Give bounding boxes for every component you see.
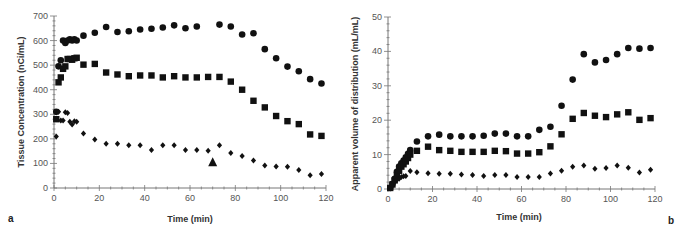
data-point bbox=[525, 150, 531, 156]
data-point bbox=[503, 172, 508, 178]
data-point bbox=[570, 164, 575, 170]
data-point bbox=[58, 57, 65, 64]
data-point bbox=[296, 167, 301, 173]
data-point bbox=[274, 164, 279, 170]
data-point bbox=[114, 71, 120, 77]
x-tick-label: 40 bbox=[140, 193, 150, 203]
data-point bbox=[228, 150, 233, 156]
data-point bbox=[172, 142, 177, 148]
data-point bbox=[148, 72, 154, 78]
data-point bbox=[414, 138, 421, 145]
chart-panel-b: 02040608010012001020304050 bbox=[372, 12, 663, 204]
series-squares bbox=[53, 55, 325, 140]
data-point bbox=[425, 143, 431, 149]
data-point bbox=[307, 76, 314, 83]
data-point bbox=[514, 174, 519, 180]
data-point bbox=[228, 78, 234, 84]
data-point bbox=[148, 25, 155, 32]
data-point bbox=[603, 57, 610, 64]
data-point bbox=[492, 148, 498, 154]
data-point bbox=[559, 168, 564, 174]
data-point bbox=[239, 87, 245, 93]
data-point bbox=[194, 23, 201, 30]
data-point bbox=[626, 165, 631, 171]
x-tick-label: 100 bbox=[603, 194, 618, 204]
data-point bbox=[138, 142, 143, 148]
data-point bbox=[319, 171, 324, 177]
data-point bbox=[514, 150, 520, 156]
data-point bbox=[114, 29, 121, 36]
data-point bbox=[526, 174, 531, 180]
data-point bbox=[284, 63, 291, 70]
data-point bbox=[414, 169, 419, 175]
data-point bbox=[92, 29, 99, 36]
data-point bbox=[558, 131, 564, 137]
data-point bbox=[603, 114, 609, 120]
data-point bbox=[436, 131, 443, 138]
x-tick-label: 60 bbox=[516, 194, 526, 204]
data-point bbox=[160, 74, 166, 80]
x-tick-label: 0 bbox=[385, 194, 390, 204]
data-point bbox=[447, 148, 453, 154]
data-point bbox=[53, 116, 59, 122]
data-point bbox=[408, 168, 413, 174]
y-tick-label: 300 bbox=[33, 109, 48, 119]
data-point bbox=[581, 51, 588, 58]
data-point bbox=[459, 172, 464, 178]
data-point bbox=[569, 116, 575, 122]
data-point bbox=[285, 164, 290, 170]
y-tick-label: 30 bbox=[372, 81, 382, 91]
data-point bbox=[194, 74, 200, 80]
data-point bbox=[469, 149, 475, 155]
x-tick-label: 20 bbox=[427, 194, 437, 204]
data-point bbox=[183, 147, 188, 153]
data-point bbox=[581, 110, 587, 116]
data-point bbox=[548, 171, 553, 177]
data-point bbox=[216, 21, 223, 28]
data-point bbox=[637, 169, 642, 175]
series-squares bbox=[387, 109, 654, 191]
series-circles bbox=[387, 45, 654, 192]
data-point bbox=[503, 130, 510, 137]
data-point bbox=[480, 149, 486, 155]
data-point bbox=[182, 25, 189, 32]
data-point bbox=[217, 142, 222, 148]
data-point bbox=[262, 104, 268, 110]
data-point bbox=[425, 170, 430, 176]
data-point bbox=[182, 74, 188, 80]
data-point bbox=[537, 174, 542, 180]
data-point bbox=[250, 30, 257, 37]
data-point bbox=[536, 149, 542, 155]
data-point bbox=[262, 162, 267, 168]
data-point bbox=[307, 131, 313, 137]
data-point bbox=[615, 163, 620, 169]
y-tick-label: 100 bbox=[33, 158, 48, 168]
data-point bbox=[569, 76, 576, 83]
data-point bbox=[592, 59, 599, 66]
data-point bbox=[273, 113, 279, 119]
data-point bbox=[194, 147, 199, 153]
data-point bbox=[558, 102, 565, 109]
data-point bbox=[137, 72, 143, 78]
data-point bbox=[514, 133, 521, 140]
data-point bbox=[458, 133, 465, 140]
data-point bbox=[296, 68, 303, 75]
data-point bbox=[103, 69, 109, 75]
data-point bbox=[592, 166, 597, 172]
data-point bbox=[458, 149, 464, 155]
y-tick-label: 20 bbox=[372, 115, 382, 125]
y-tick-label: 50 bbox=[372, 12, 382, 22]
data-point bbox=[149, 147, 154, 153]
data-point bbox=[92, 61, 98, 67]
data-point bbox=[296, 121, 302, 127]
data-point bbox=[126, 142, 131, 148]
data-point bbox=[62, 63, 68, 69]
y-tick-label: 200 bbox=[33, 134, 48, 144]
data-point bbox=[647, 115, 653, 121]
x-tick-label: 60 bbox=[185, 193, 195, 203]
data-point bbox=[58, 74, 64, 80]
x-tick-label: 20 bbox=[94, 193, 104, 203]
data-point bbox=[73, 55, 79, 61]
data-point bbox=[80, 32, 87, 39]
data-point bbox=[636, 117, 642, 123]
